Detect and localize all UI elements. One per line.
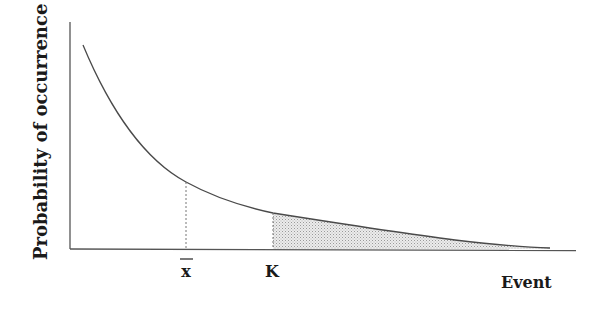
y-axis-label: Probability of occurrence: [30, 4, 51, 260]
probability-diagram: Probability of occurrence x K Event: [0, 0, 594, 313]
probability-curve: [83, 45, 550, 248]
mean-marker-label: x: [181, 262, 191, 281]
x-axis-label: Event: [501, 273, 552, 292]
threshold-marker-label: K: [265, 262, 280, 281]
x-axis: [70, 249, 576, 251]
tail-shaded-area: [273, 213, 550, 249]
